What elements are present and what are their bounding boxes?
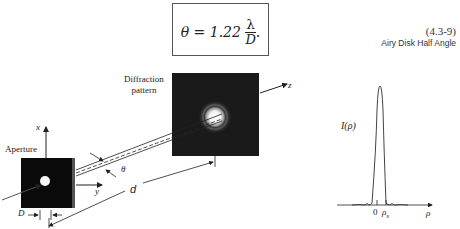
- intensity-plot: [337, 86, 432, 205]
- aperture-label: Aperture: [5, 144, 37, 154]
- theta-indicator: [90, 153, 116, 177]
- rho-s-subscript: s: [386, 212, 389, 220]
- diffraction-pattern-label: Diffraction pattern: [124, 74, 164, 96]
- diffraction-screen: [172, 73, 259, 156]
- airy-intensity-curve: [352, 86, 408, 205]
- z-axis-arrow: [260, 84, 287, 93]
- intensity-axis-label: I(ρ): [341, 120, 356, 131]
- tick-label-origin: 0: [373, 207, 378, 217]
- y-axis-label: y: [95, 186, 99, 196]
- diffraction-diagram: [0, 0, 460, 229]
- diameter-label: D: [18, 208, 25, 218]
- z-axis-label: z: [288, 80, 292, 90]
- rho-axis-label: ρ: [426, 208, 430, 218]
- x-axis-label: x: [36, 122, 40, 132]
- aperture-plate: [21, 158, 75, 208]
- distance-label: d: [130, 183, 136, 195]
- theta-label: θ: [121, 164, 125, 174]
- diffraction-label-line2: pattern: [124, 85, 164, 96]
- diameter-dimension: [28, 210, 62, 220]
- diffraction-label-line1: Diffraction: [124, 74, 164, 85]
- tick-label-rho-s: ρs: [382, 207, 389, 220]
